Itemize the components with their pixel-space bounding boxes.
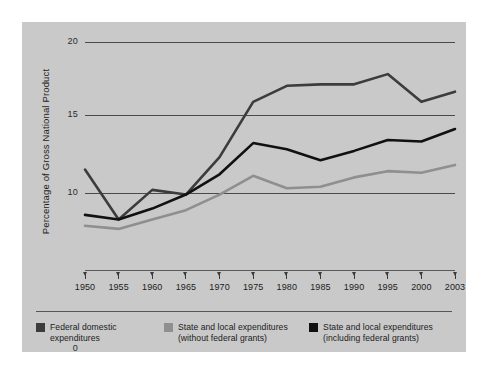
x-tick-mark-1985	[318, 272, 323, 279]
x-tick-mark-1995	[385, 272, 390, 279]
x-tick-label-2000: 2000	[404, 282, 438, 292]
federal-domestic-swatch	[36, 323, 45, 332]
x-tick-label-1985: 1985	[303, 282, 337, 292]
legend-label-line1-2: State and local expenditures	[323, 322, 433, 333]
legend-label-line2-2: (including federal grants)	[323, 333, 433, 344]
x-tick-mark-1955	[116, 272, 121, 279]
state-local-without-grants-swatch	[164, 323, 173, 332]
x-tick-mark-1965	[183, 272, 188, 279]
y-tick-label-0: 0	[52, 343, 78, 353]
x-tick-label-1960: 1960	[135, 282, 169, 292]
x-tick-mark-2003	[453, 272, 458, 279]
y-axis-label-container: Percentage of Gross National Product	[30, 42, 46, 270]
legend-item-1[interactable]: State and local expenditures(without fed…	[164, 322, 309, 344]
legend-item-0[interactable]: Federal domesticexpenditures	[36, 322, 164, 344]
x-tick-label-1980: 1980	[270, 282, 304, 292]
y-axis-label: Percentage of Gross National Product	[40, 39, 51, 265]
x-tick-mark-2000	[419, 272, 424, 279]
x-tick-label-1970: 1970	[203, 282, 237, 292]
x-tick-label-2003: 2003	[438, 282, 472, 292]
x-tick-label-1965: 1965	[169, 282, 203, 292]
x-tick-label-1950: 1950	[68, 282, 102, 292]
y-tick-label-15: 15	[52, 109, 78, 119]
chart-legend: Federal domesticexpendituresState and lo…	[36, 322, 456, 344]
x-tick-mark-1990	[352, 272, 357, 279]
legend-label-line2-1: (without federal grants)	[178, 333, 288, 344]
state-local-including-grants-swatch	[309, 323, 318, 332]
legend-item-2[interactable]: State and local expenditures(including f…	[309, 322, 456, 344]
legend-label-line1-0: Federal domestic	[50, 322, 117, 333]
y-tick-label-20: 20	[52, 36, 78, 46]
series-line-state-local-without-grants	[85, 165, 455, 229]
legend-label-line1-1: State and local expenditures	[178, 322, 288, 333]
plot-area	[85, 38, 455, 274]
chart-figure: Percentage of Gross National Product 010…	[0, 0, 486, 369]
legend-divider	[36, 311, 452, 312]
legend-label-0: Federal domesticexpenditures	[50, 322, 117, 344]
series-line-state-local-including-grants	[85, 129, 455, 219]
x-tick-label-1975: 1975	[236, 282, 270, 292]
x-tick-mark-1950	[83, 272, 88, 279]
x-tick-mark-1975	[251, 272, 256, 279]
x-tick-label-1955: 1955	[102, 282, 136, 292]
x-tick-label-1995: 1995	[371, 282, 405, 292]
legend-label-2: State and local expenditures(including f…	[323, 322, 433, 344]
legend-label-1: State and local expenditures(without fed…	[178, 322, 288, 344]
legend-label-line2-0: expenditures	[50, 333, 117, 344]
y-tick-label-10: 10	[52, 187, 78, 197]
x-tick-label-1990: 1990	[337, 282, 371, 292]
x-tick-mark-1970	[217, 272, 222, 279]
x-tick-mark-1960	[150, 272, 155, 279]
x-tick-mark-1980	[284, 272, 289, 279]
series-lines	[85, 38, 455, 274]
